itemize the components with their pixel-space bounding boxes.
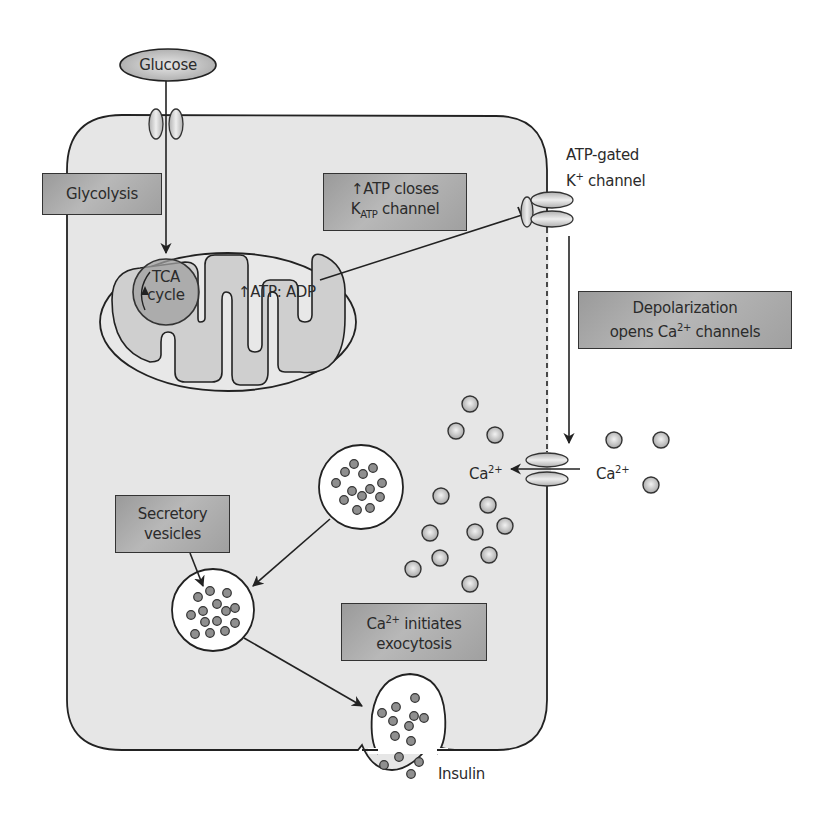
diagram-canvas (0, 0, 832, 816)
insulin-label: Insulin (438, 764, 485, 784)
ca-init-sup: 2+ (386, 614, 400, 625)
ca-outside-text: Ca (596, 465, 615, 483)
glucose-label: Glucose (120, 55, 216, 75)
k-channel-sup: + (576, 171, 584, 182)
ca-inside-label: Ca2+ (469, 460, 502, 484)
ca-initiates-exocytosis-box: Ca2+ initiates exocytosis (341, 603, 487, 661)
ca-init-line2: exocytosis (376, 634, 452, 654)
depol-line2-a: opens Ca (610, 323, 677, 341)
katp-rest: channel (378, 200, 440, 218)
secretory-vesicle-upper (319, 445, 403, 529)
atp-gated-k-channel-label: ATP-gated K+ channel (566, 144, 645, 192)
secretory-vesicle-lower (172, 569, 254, 651)
depol-sup: 2+ (677, 322, 691, 333)
ca-outside-label: Ca2+ (596, 460, 629, 484)
ca-outside-sup: 2+ (615, 464, 629, 475)
depol-line2: opens Ca2+ channels (610, 318, 761, 342)
tca-cycle-label: TCA cycle (140, 268, 192, 304)
glycolysis-label: Glycolysis (66, 184, 138, 204)
tca-line1: TCA (140, 268, 192, 286)
ca-init-b: initiates (400, 615, 462, 633)
secretory-line2: vesicles (144, 524, 201, 544)
secretory-vesicles-box: Secretory vesicles (115, 495, 230, 553)
depol-line2-b: channels (691, 323, 760, 341)
ca-init-a: Ca (366, 615, 385, 633)
secretory-line1: Secretory (138, 504, 207, 524)
k-channel-k: K (566, 172, 576, 190)
tca-line2: cycle (140, 286, 192, 304)
k-channel-line2: K+ channel (566, 166, 645, 192)
atp-adp-label: ↑ATP: ADP (238, 282, 316, 302)
ca-inside-sup: 2+ (488, 464, 502, 475)
ca-inside-text: Ca (469, 465, 488, 483)
katp-k: K (351, 200, 361, 218)
depol-line1: Depolarization (633, 298, 738, 318)
depolarization-box: Depolarization opens Ca2+ channels (578, 291, 792, 349)
glycolysis-box: Glycolysis (42, 173, 162, 215)
k-channel-rest: channel (584, 172, 646, 190)
ca-init-line1: Ca2+ initiates (366, 610, 461, 634)
k-channel-line1: ATP-gated (566, 144, 645, 166)
katp-channel-line: KATP channel (351, 199, 440, 225)
atp-closes-line1: ↑ATP closes (351, 179, 439, 199)
katp-subscript: ATP (360, 209, 377, 220)
atp-closes-katp-box: ↑ATP closes KATP channel (323, 173, 467, 231)
